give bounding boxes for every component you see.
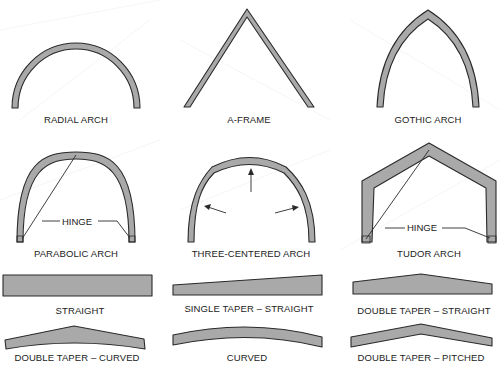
three-centered-arch-group — [188, 158, 315, 243]
radial-arch-shape — [12, 43, 140, 108]
parabolic-hinge-label: HINGE — [62, 216, 92, 227]
gothic-arch-shape — [377, 10, 479, 107]
curved-beam-shape — [173, 327, 322, 347]
double-taper-straight-beam-label: DOUBLE TAPER – STRAIGHT — [357, 305, 490, 316]
double-taper-straight-beam-shape — [353, 274, 492, 294]
gothic-arch-label: GOTHIC ARCH — [394, 114, 461, 125]
straight-beam-label: STRAIGHT — [56, 305, 105, 316]
parabolic-arch-group — [17, 152, 135, 242]
double-taper-curved-beam-label: DOUBLE TAPER – CURVED — [14, 352, 139, 363]
tudor-hinge-label: HINGE — [407, 222, 437, 233]
arrow-right-icon — [292, 205, 299, 211]
tudor-arch-label: TUDOR ARCH — [397, 248, 461, 259]
double-taper-pitched-beam-label: DOUBLE TAPER – PITCHED — [358, 352, 485, 363]
parabolic-arch-shape — [17, 152, 135, 242]
radial-arch-label: RADIAL ARCH — [44, 114, 108, 125]
double-taper-curved-beam-shape — [5, 326, 145, 349]
a-frame-label: A-FRAME — [227, 114, 270, 125]
background-sketch-lines — [0, 0, 500, 250]
double-taper-pitched-beam-shape — [351, 324, 492, 347]
single-taper-straight-beam-label: SINGLE TAPER – STRAIGHT — [184, 303, 313, 314]
parabolic-arch-label: PARABOLIC ARCH — [34, 248, 118, 259]
straight-beam-shape — [3, 275, 152, 296]
arrow-up-icon — [248, 168, 254, 175]
a-frame-shape — [184, 9, 314, 107]
three-centered-arch-label: THREE-CENTERED ARCH — [192, 248, 311, 259]
curved-beam-label: CURVED — [227, 352, 268, 363]
arrow-left-icon — [204, 204, 211, 210]
single-taper-straight-beam-shape — [173, 275, 322, 295]
